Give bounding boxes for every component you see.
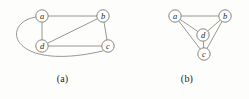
edge-b-c xyxy=(104,22,107,40)
node-label-a: a xyxy=(173,11,177,21)
node-label-c: c xyxy=(202,49,206,59)
graph-diagram-b: abcd xyxy=(125,0,249,70)
node-d[interactable]: d xyxy=(197,29,209,41)
node-c[interactable]: c xyxy=(198,48,210,60)
node-a[interactable]: a xyxy=(169,10,181,22)
node-a[interactable]: a xyxy=(36,10,48,22)
node-label-c: c xyxy=(106,41,110,51)
node-label-b: b xyxy=(101,11,105,21)
graph-panel-b: abcd (b) xyxy=(125,0,249,99)
figure-container: abcd (a) abcd (b) xyxy=(0,0,249,99)
node-b[interactable]: b xyxy=(219,10,231,22)
node-b[interactable]: b xyxy=(97,10,109,22)
node-c[interactable]: c xyxy=(102,40,114,52)
caption-b: (b) xyxy=(125,73,249,84)
graph-panel-a: abcd (a) xyxy=(0,0,125,99)
node-label-b: b xyxy=(223,11,227,21)
node-d[interactable]: d xyxy=(36,40,48,52)
edge-b-d xyxy=(48,19,98,44)
caption-a: (a) xyxy=(0,73,125,84)
edge-b-d xyxy=(208,20,221,31)
node-label-a: a xyxy=(40,11,44,21)
graph-diagram-a: abcd xyxy=(0,0,125,70)
